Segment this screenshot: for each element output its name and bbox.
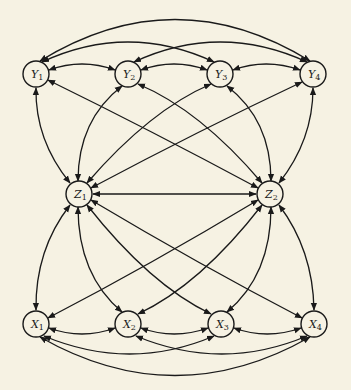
node-y1: Y1 xyxy=(23,61,49,87)
nodes-layer: Y1Y2Y3Y4Z1Z2X1X2X3X4 xyxy=(23,61,327,337)
node-z2: Z2 xyxy=(257,181,283,207)
edge-z1-x1 xyxy=(36,205,70,310)
node-x1: X1 xyxy=(23,311,49,337)
edge-z1-y3 xyxy=(87,84,211,183)
edge-y1-y4 xyxy=(40,20,310,62)
edge-z2-y1 xyxy=(48,80,258,188)
edge-z1-x2 xyxy=(78,207,122,312)
node-y2: Y2 xyxy=(115,61,141,87)
path-diagram: Y1Y2Y3Y4Z1Z2X1X2X3X4 xyxy=(0,0,351,390)
node-x2: X2 xyxy=(115,311,141,337)
edge-z2-x1 xyxy=(48,200,258,318)
edge-y1-y2 xyxy=(49,64,115,70)
node-x4: X4 xyxy=(301,311,327,337)
edge-x1-x2 xyxy=(49,328,115,334)
edge-y3-y4 xyxy=(233,64,300,70)
edge-z1-y2 xyxy=(78,86,122,181)
edge-z2-y4 xyxy=(279,88,313,183)
node-y3: Y3 xyxy=(207,61,233,87)
edge-z1-y1 xyxy=(36,88,70,183)
edge-x1-x4 xyxy=(40,337,310,376)
node-z1: Z1 xyxy=(66,181,92,207)
edge-z1-x3 xyxy=(87,205,211,314)
node-x3: X3 xyxy=(208,311,234,337)
edge-x2-x3 xyxy=(141,328,208,334)
edge-y2-y3 xyxy=(141,64,207,70)
edge-x3-x4 xyxy=(234,328,301,334)
edge-z2-x4 xyxy=(279,205,314,310)
edge-z2-x3 xyxy=(227,207,271,312)
edge-z2-y2 xyxy=(138,84,262,183)
node-y4: Y4 xyxy=(300,61,326,87)
